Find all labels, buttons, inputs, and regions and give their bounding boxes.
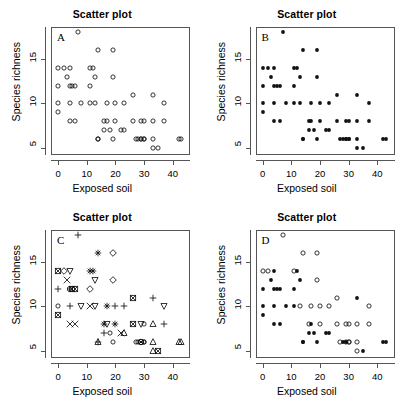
panel-c-y-tick (41, 262, 45, 263)
panel-c-corner-label: C (57, 234, 64, 246)
panel-d-y-tick-label: 5 (232, 344, 243, 349)
scatter-plot-figure-grid: Scatter plot A Exposed soil Species rich… (0, 0, 409, 406)
panel-c-y-axis-title: Species richness (10, 245, 22, 324)
panel-b-y-tick (246, 59, 250, 60)
panel-c-x-tick-label: 40 (168, 371, 179, 382)
panel-c-x-tick (58, 364, 59, 368)
panel-a-y-tick-label: 10 (27, 96, 38, 107)
panel-c-x-tick-label: 0 (56, 371, 61, 382)
panel-a-y-axis-line (45, 27, 46, 155)
panel-a-x-axis-title: Exposed soil (0, 182, 205, 194)
panel-a-x-tick (58, 161, 59, 165)
panel-c-y-tick (41, 351, 45, 352)
panel-a-title: Scatter plot (0, 8, 205, 20)
panel-d-x-tick-label: 0 (260, 371, 265, 382)
panel-a-x-tick-label: 40 (168, 168, 179, 179)
panel-b-x-tick-label: 30 (343, 168, 354, 179)
panel-d-y-tick (246, 351, 250, 352)
panel-a-y-tick (41, 103, 45, 104)
panel-a-y-tick-label: 15 (27, 52, 38, 63)
panel-b-plot-area (256, 27, 395, 155)
panel-c-x-tick (144, 364, 145, 368)
panel-a-x-tick (144, 161, 145, 165)
panel-c-x-tick-label: 20 (110, 371, 121, 382)
panel-c-x-axis-title: Exposed soil (0, 385, 205, 397)
panel-c-x-axis-line (51, 363, 190, 364)
panel-c-y-tick (41, 306, 45, 307)
panel-d-plot-area (256, 230, 395, 358)
panel-d-x-tick (349, 364, 350, 368)
panel-d-y-tick-label: 10 (232, 299, 243, 310)
panel-d-x-axis-line (256, 363, 395, 364)
panel-a: Scatter plot A Exposed soil Species rich… (0, 0, 205, 203)
panel-c-plot-area (51, 230, 190, 358)
panel-a-y-tick (41, 148, 45, 149)
panel-d-x-tick (320, 364, 321, 368)
panel-b-y-axis-line (250, 27, 251, 155)
panel-b-x-tick (291, 161, 292, 165)
panel-d-x-tick-label: 30 (343, 371, 354, 382)
panel-d-x-axis-title: Exposed soil (205, 385, 409, 397)
panel-a-x-tick-label: 0 (56, 168, 61, 179)
panel-b-x-axis-line (256, 160, 395, 161)
panel-c-y-tick-label: 15 (27, 255, 38, 266)
panel-a-x-tick (173, 161, 174, 165)
panel-d-x-tick (263, 364, 264, 368)
panel-c-x-tick-label: 10 (82, 371, 93, 382)
panel-a-x-tick-label: 10 (82, 168, 93, 179)
panel-b-x-tick (320, 161, 321, 165)
panel-b-x-tick (349, 161, 350, 165)
panel-d-x-tick-label: 40 (372, 371, 383, 382)
panel-c: Scatter plot C Exposed soil Species rich… (0, 203, 205, 406)
panel-b-x-tick-label: 40 (372, 168, 383, 179)
panel-a-plot-area (51, 27, 190, 155)
panel-b-x-tick (377, 161, 378, 165)
panel-b-x-tick-label: 0 (260, 168, 265, 179)
panel-c-x-tick (87, 364, 88, 368)
panel-d-y-tick (246, 262, 250, 263)
panel-b-y-axis-title: Species richness (215, 42, 227, 121)
panel-b-y-tick (246, 103, 250, 104)
panel-a-y-axis-title: Species richness (10, 42, 22, 121)
panel-b-title: Scatter plot (205, 8, 409, 20)
panel-d-x-tick-label: 10 (286, 371, 297, 382)
panel-b-x-axis-title: Exposed soil (205, 182, 409, 194)
panel-b-x-tick (263, 161, 264, 165)
panel-a-x-axis-line (51, 160, 190, 161)
panel-b-x-tick-label: 20 (315, 168, 326, 179)
panel-d: Scatter plot D Exposed soil Species rich… (205, 203, 409, 406)
panel-c-x-tick (173, 364, 174, 368)
panel-b: Scatter plot B Exposed soil Species rich… (205, 0, 409, 203)
panel-d-x-tick-label: 20 (315, 371, 326, 382)
panel-d-y-axis-title: Species richness (215, 245, 227, 324)
panel-d-y-tick-label: 15 (232, 255, 243, 266)
panel-a-x-tick-label: 30 (139, 168, 150, 179)
panel-c-x-tick-label: 30 (139, 371, 150, 382)
panel-b-y-tick-label: 15 (232, 52, 243, 63)
panel-b-y-tick (246, 148, 250, 149)
panel-b-y-tick-label: 10 (232, 96, 243, 107)
panel-c-title: Scatter plot (0, 211, 205, 223)
panel-b-corner-label: B (262, 31, 269, 43)
panel-d-x-tick (291, 364, 292, 368)
panel-a-corner-label: A (57, 31, 65, 43)
panel-b-y-tick-label: 5 (232, 141, 243, 146)
panel-d-x-tick (377, 364, 378, 368)
panel-c-y-axis-line (45, 230, 46, 358)
panel-a-y-tick (41, 59, 45, 60)
panel-d-title: Scatter plot (205, 211, 409, 223)
panel-a-x-tick-label: 20 (110, 168, 121, 179)
panel-c-y-tick-label: 10 (27, 299, 38, 310)
panel-a-x-tick (87, 161, 88, 165)
panel-d-y-tick (246, 306, 250, 307)
panel-b-x-tick-label: 10 (286, 168, 297, 179)
panel-c-y-tick-label: 5 (27, 344, 38, 349)
panel-c-x-tick (115, 364, 116, 368)
panel-d-corner-label: D (262, 234, 270, 246)
panel-a-x-tick (115, 161, 116, 165)
panel-d-y-axis-line (250, 230, 251, 358)
panel-a-y-tick-label: 5 (27, 141, 38, 146)
